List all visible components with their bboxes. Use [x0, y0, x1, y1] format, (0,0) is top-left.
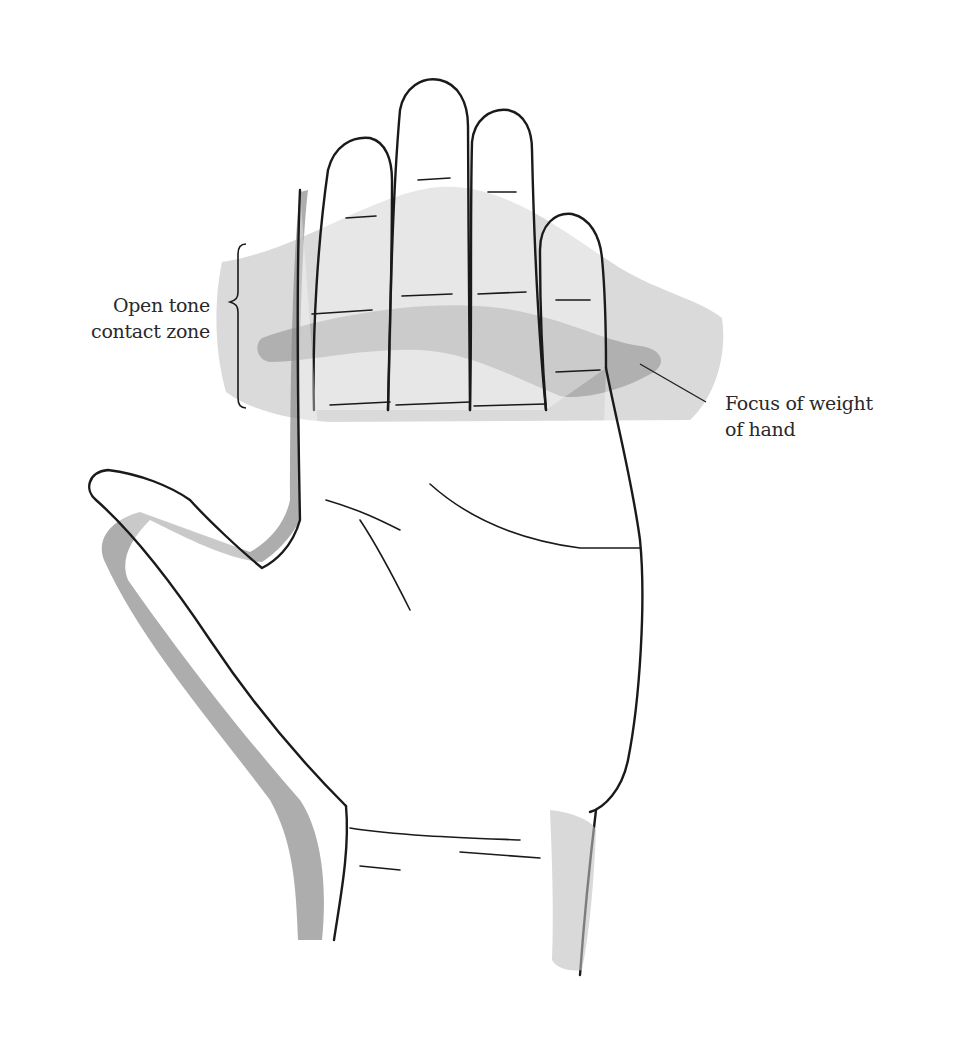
hand-illustration — [0, 0, 964, 1047]
weight-focus-label-line1: Focus of weight — [725, 390, 945, 416]
weight-focus-label: Focus of weight of hand — [725, 390, 945, 442]
hand-diagram: Open tone contact zone Focus of weight o… — [0, 0, 964, 1047]
contact-zone-label-line2: contact zone — [70, 318, 210, 344]
contact-zone-label: Open tone contact zone — [70, 292, 210, 344]
contact-zone-label-line1: Open tone — [70, 292, 210, 318]
weight-focus-label-line2: of hand — [725, 416, 945, 442]
wrist-shadow — [550, 810, 596, 971]
